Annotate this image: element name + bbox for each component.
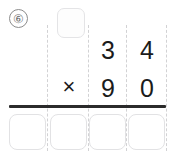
answer-input-box[interactable] bbox=[89, 114, 126, 150]
multiplication-operator: × bbox=[50, 74, 88, 100]
answer-input-box[interactable] bbox=[128, 114, 165, 150]
problem-number-badge: ⑥ bbox=[9, 9, 28, 28]
answer-rule-line bbox=[9, 105, 166, 108]
answer-input-box[interactable] bbox=[9, 114, 46, 150]
column-guide-thousands bbox=[47, 25, 48, 151]
multiplier-ones-digit: 0 bbox=[128, 74, 166, 103]
multiplication-worksheet: ⑥ 3 4 × 9 0 bbox=[0, 0, 178, 157]
multiplier-tens-digit: 9 bbox=[89, 74, 127, 103]
carry-input-box[interactable] bbox=[57, 8, 85, 38]
column-guide-ones bbox=[166, 25, 167, 151]
multiplicand-tens-digit: 3 bbox=[89, 36, 127, 65]
multiplicand-ones-digit: 4 bbox=[128, 36, 166, 65]
answer-input-box[interactable] bbox=[50, 114, 87, 150]
